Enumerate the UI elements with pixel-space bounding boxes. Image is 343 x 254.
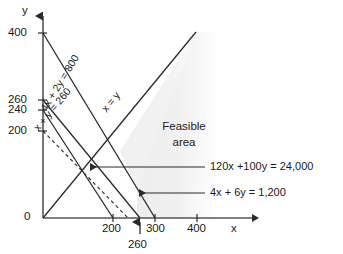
callout-label-4x-6y: 4x + 6y = 1,200 xyxy=(210,187,286,199)
x-tick-260: 260 xyxy=(128,238,147,250)
line-120x-100y-24000 xyxy=(43,110,113,218)
feasible-area-line1: Feasible xyxy=(153,119,215,135)
feasible-area-label: Feasible area xyxy=(153,119,215,150)
x-tick-400: 400 xyxy=(187,222,206,234)
y-tick-200: 200 xyxy=(8,124,27,136)
y-tick-400: 400 xyxy=(8,26,27,38)
origin-label: 0 xyxy=(24,210,30,222)
x-tick-200: 200 xyxy=(102,222,121,234)
x-tick-300: 300 xyxy=(146,222,165,234)
linear-programming-chart: y x 400 260 240 200 0 200 300 400 260 4x… xyxy=(0,0,343,254)
feasible-area-line2: area xyxy=(153,135,215,151)
y-tick-240: 240 xyxy=(8,103,27,115)
callout-label-120x-100y: 120x +100y = 24,000 xyxy=(210,161,313,173)
line-4x-6y-1200 xyxy=(43,131,128,218)
y-axis-label: y xyxy=(22,4,28,16)
x-axis-label: x xyxy=(231,222,237,234)
